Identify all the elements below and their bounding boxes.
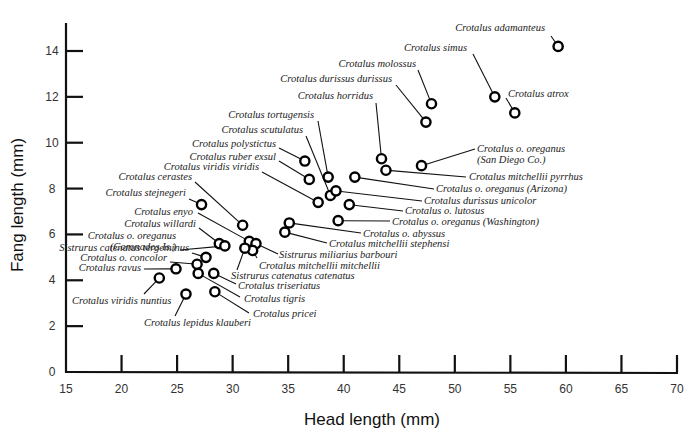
- point-label: Crotalus tortugensis: [228, 109, 314, 120]
- x-tick-label: 25: [170, 382, 184, 396]
- leader-line: [189, 199, 197, 203]
- data-point: [285, 218, 294, 227]
- point-label: Crotalus willardi: [124, 218, 196, 229]
- data-point: [381, 166, 390, 175]
- point-label: Crotalus lepidus klauberi: [144, 317, 251, 328]
- data-point: [192, 260, 201, 269]
- y-axis-ticks: 02468101214: [45, 44, 83, 379]
- leader-line: [418, 70, 430, 99]
- x-tick-label: 30: [226, 382, 240, 396]
- leader-line: [290, 233, 327, 243]
- x-axis-title: Head length (mm): [304, 410, 440, 429]
- data-point: [171, 264, 180, 273]
- leader-line: [473, 54, 493, 92]
- y-axis-title: Fang length (mm): [8, 138, 27, 272]
- point-label: Crotalus atrox: [508, 88, 569, 99]
- data-point: [240, 244, 249, 253]
- leader-line: [360, 178, 434, 189]
- leader-line: [170, 262, 192, 264]
- x-tick-label: 40: [337, 382, 351, 396]
- y-tick-label: 6: [49, 227, 56, 241]
- leader-line: [144, 282, 156, 294]
- point-label: Crotalus o. oreganus (Washington): [392, 216, 540, 228]
- x-tick-label: 60: [559, 382, 573, 396]
- data-point: [155, 273, 164, 282]
- x-tick-label: 45: [393, 382, 407, 396]
- x-tick-label: 35: [282, 382, 296, 396]
- y-tick-label: 14: [45, 44, 59, 58]
- leader-line: [192, 253, 201, 256]
- point-label: Crotalus durissus durissus: [280, 73, 392, 84]
- x-tick-label: 55: [504, 382, 518, 396]
- data-point: [209, 269, 218, 278]
- y-tick-label: 2: [49, 319, 56, 333]
- data-point: [324, 173, 333, 182]
- x-axis-ticks: 152025303540455055606570: [59, 355, 684, 396]
- point-label: Crotalus simus: [404, 42, 467, 53]
- point-labels: Crotalus adamanteusCrotalus simusCrotalu…: [59, 22, 582, 328]
- point-label: Crotalus viridis nuntius: [72, 295, 171, 306]
- data-point: [417, 161, 426, 170]
- data-point: [194, 269, 203, 278]
- leader-line: [260, 246, 278, 254]
- x-tick-label: 65: [615, 382, 629, 396]
- data-point: [345, 200, 354, 209]
- point-label: Crotalus scutulatus: [221, 124, 303, 135]
- x-tick-label: 20: [115, 382, 129, 396]
- data-point: [181, 289, 190, 298]
- data-point: [305, 175, 314, 184]
- leader-line: [175, 299, 184, 316]
- data-point: [220, 241, 229, 250]
- data-point: [331, 186, 340, 195]
- point-label: Crotalus ravus: [79, 262, 141, 273]
- y-tick-label: 8: [49, 182, 56, 196]
- y-tick-label: 10: [45, 136, 59, 150]
- data-point: [427, 99, 436, 108]
- leader-line: [237, 253, 243, 270]
- leader-line: [506, 98, 512, 109]
- data-point: [197, 200, 206, 209]
- leader-line: [294, 224, 361, 233]
- point-label: Crotalus molossus: [338, 58, 416, 69]
- leader-line: [341, 191, 422, 201]
- scatter-chart: 02468101214 152025303540455055606570 Hea…: [0, 0, 694, 436]
- leader-line: [354, 205, 403, 211]
- y-tick-label: 0: [49, 365, 56, 379]
- point-label: Crotalus pricei: [253, 308, 317, 319]
- leader-line: [318, 121, 327, 172]
- point-label: Crotalus mitchellii stephensi: [329, 238, 449, 249]
- point-label: Crotalus mitchellii pyrrhus: [469, 171, 583, 182]
- point-label: Crotalus o. lutosus: [405, 205, 484, 216]
- x-axis-line: [65, 372, 678, 373]
- leader-line: [426, 149, 475, 164]
- y-tick-label: 12: [45, 90, 59, 104]
- data-point: [238, 221, 247, 230]
- data-point: [377, 154, 386, 163]
- data-point: [510, 108, 519, 117]
- point-label: Sistrurus miliarius barbouri: [279, 249, 398, 260]
- data-point: [490, 92, 499, 101]
- x-tick-label: 50: [448, 382, 462, 396]
- y-tick-label: 4: [49, 273, 56, 287]
- leader-line: [396, 85, 423, 118]
- x-tick-label: 15: [59, 382, 73, 396]
- leader-line: [376, 103, 381, 154]
- point-label: Crotalus enyo: [134, 206, 193, 217]
- data-point: [201, 253, 210, 262]
- point-label: Crotalus cerastes: [119, 171, 192, 182]
- data-point: [210, 287, 219, 296]
- point-label: Crotalus o. oreganus (Arizona): [436, 183, 568, 195]
- data-point: [421, 117, 430, 126]
- point-label: Crotalus adamanteus: [455, 22, 545, 33]
- data-point: [554, 42, 563, 51]
- point-label: Crotalus horridus: [298, 90, 373, 101]
- leader-line: [279, 148, 300, 159]
- data-point: [314, 198, 323, 207]
- point-label: Crotalus polystictus: [192, 138, 276, 149]
- point-label: Crotalus stejnegeri: [106, 187, 186, 198]
- data-point: [300, 156, 309, 165]
- leader-line: [551, 36, 555, 42]
- point-label: Crotalus tigris: [244, 293, 305, 304]
- data-point: [334, 216, 343, 225]
- point-label: Crotalus triseriatus: [238, 280, 320, 291]
